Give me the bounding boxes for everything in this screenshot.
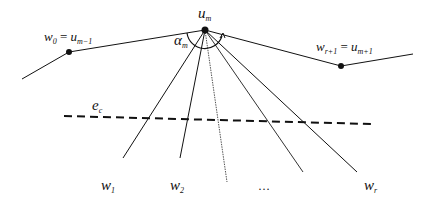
left-label-u-sub: m−1 xyxy=(77,37,92,46)
left-label-w-sub: 0 xyxy=(53,37,57,46)
wr-main: w xyxy=(364,177,374,193)
label-w2: w2 xyxy=(170,178,184,195)
angle-label-main: α xyxy=(174,32,182,48)
fan-line-dotted xyxy=(205,30,227,182)
label-wr: wr xyxy=(364,178,377,195)
right-label-u-sub: m+1 xyxy=(358,47,373,56)
edge-label-sub: c xyxy=(99,106,103,115)
angle-label: αm xyxy=(174,33,188,50)
w2-sub: 2 xyxy=(180,186,184,195)
label-ellipsis: … xyxy=(258,180,270,192)
right-label-w-sub: r+1 xyxy=(325,47,338,56)
hub-label-main: u xyxy=(198,5,206,21)
w1-main: w xyxy=(101,177,111,193)
hub-label: um xyxy=(198,6,211,23)
w1-sub: 1 xyxy=(111,186,115,195)
left-label-w: w xyxy=(44,29,53,44)
label-w1: w1 xyxy=(101,178,115,195)
right-neighbor-label: wr+1 = um+1 xyxy=(316,40,373,56)
w2-main: w xyxy=(170,177,180,193)
left-label-eq: = xyxy=(60,29,67,44)
hub-label-sub: m xyxy=(206,14,212,23)
edge-ec-label: ec xyxy=(92,98,102,115)
left-neighbor-label: w0 = um−1 xyxy=(44,30,92,46)
node-left xyxy=(66,49,72,55)
right-label-w: w xyxy=(316,39,325,54)
edge-label-main: e xyxy=(92,97,99,113)
fan-line-middle xyxy=(205,30,303,172)
node-right xyxy=(338,63,344,69)
edge-left-outer xyxy=(22,52,69,79)
right-label-eq: = xyxy=(340,39,347,54)
ellipsis-main: … xyxy=(258,179,270,193)
node-hub xyxy=(202,27,209,34)
angle-label-sub: m xyxy=(182,41,188,50)
wr-sub: r xyxy=(374,186,377,195)
